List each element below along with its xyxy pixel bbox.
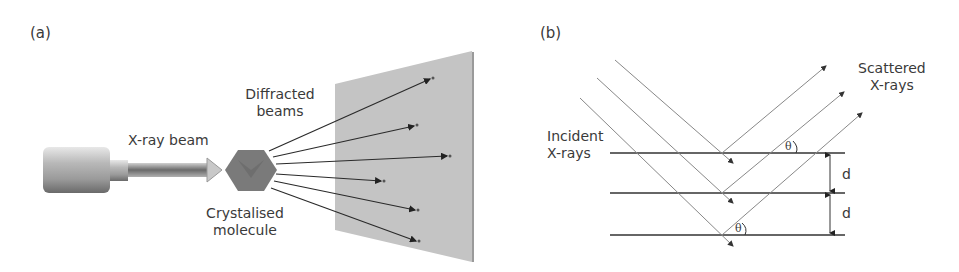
incident-xrays-label: Incident X-rays <box>547 128 603 162</box>
incident-line1: Incident <box>547 128 603 145</box>
theta-arcs <box>742 141 797 235</box>
detector-screen <box>335 51 473 262</box>
crystal-planes <box>610 153 845 235</box>
diffracted-line2: beams <box>240 103 320 120</box>
d-lower-label: d <box>842 205 851 222</box>
diffracted-line1: Diffracted <box>240 86 320 103</box>
xray-beam-arrow <box>128 158 222 182</box>
theta-bottom-label: θ <box>735 220 742 237</box>
crystalised-molecule-label: Crystalised molecule <box>200 205 290 239</box>
scattered-line1: Scattered <box>858 60 926 77</box>
scattered-xrays-label: Scattered X-rays <box>858 60 926 94</box>
theta-top-label: θ <box>785 138 792 155</box>
scattered-line2: X-rays <box>858 77 926 94</box>
scattered-rays <box>722 66 862 235</box>
panel-b-label: (b) <box>540 25 561 42</box>
crystal-line1: Crystalised <box>200 205 290 222</box>
incident-line2: X-rays <box>547 145 603 162</box>
d-upper-label: d <box>842 166 851 183</box>
diffracted-beams-label: Diffracted beams <box>240 86 320 120</box>
crystal-line2: molecule <box>200 222 290 239</box>
xray-source-icon <box>43 147 128 193</box>
xray-beam-label: X-ray beam <box>128 132 209 149</box>
crystal-icon <box>225 150 277 191</box>
panel-a-label: (a) <box>30 25 51 42</box>
